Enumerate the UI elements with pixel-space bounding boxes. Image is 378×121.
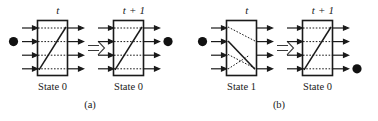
unit-b-t1-solid-path bbox=[304, 27, 331, 70]
ball-b-t bbox=[198, 37, 207, 46]
ball-b-t1 bbox=[352, 64, 361, 73]
state-label-a-t: State 0 bbox=[20, 81, 85, 93]
transition-arrow-b bbox=[277, 41, 294, 55]
unit-b-t-solid-path bbox=[228, 41, 255, 69]
unit-a-t1-solid-path bbox=[115, 27, 142, 70]
transition-arrow-a bbox=[88, 41, 105, 55]
figure-rotor-state-transitions: t t + 1 bbox=[0, 0, 378, 121]
panel-caption-b: (b) bbox=[249, 99, 309, 111]
state-label-b-t: State 1 bbox=[209, 81, 274, 93]
panel-caption-a: (a) bbox=[60, 99, 120, 111]
state-label-a-t1: State 0 bbox=[96, 81, 161, 93]
state-label-b-t1: State 0 bbox=[285, 81, 350, 93]
unit-a-t-solid-path bbox=[39, 27, 66, 70]
panel-b: t t + 1 bbox=[189, 0, 378, 121]
panel-a: t t + 1 bbox=[0, 0, 189, 121]
ball-a-t bbox=[9, 37, 18, 46]
ball-a-t1 bbox=[163, 37, 172, 46]
